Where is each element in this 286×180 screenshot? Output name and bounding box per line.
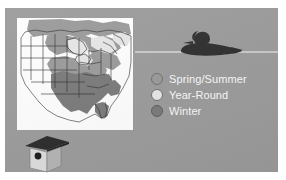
map-legend: Spring/Summer Year-Round Winter <box>151 71 277 119</box>
range-map-graphic <box>17 18 133 130</box>
birdhouse-icon <box>23 133 71 173</box>
figure-panel: Spring/Summer Year-Round Winter <box>5 8 278 172</box>
legend-label-winter: Winter <box>169 105 201 117</box>
birdhouse-entrance-hole <box>35 153 42 160</box>
legend-item-winter[interactable]: Winter <box>151 103 277 119</box>
birdhouse-graphic <box>23 133 71 173</box>
legend-label-year-round: Year-Round <box>169 89 228 101</box>
range-map-card <box>17 18 133 130</box>
legend-label-spring-summer: Spring/Summer <box>169 73 247 85</box>
duck-silhouette-graphic <box>173 30 243 58</box>
legend-swatch-spring-summer <box>151 73 163 85</box>
page-top-text-artifact: · · <box>0 0 286 7</box>
legend-swatch-winter <box>151 105 163 117</box>
legend-swatch-year-round <box>151 89 163 101</box>
legend-item-year-round[interactable]: Year-Round <box>151 87 277 103</box>
legend-item-spring-summer[interactable]: Spring/Summer <box>151 71 277 87</box>
duck-silhouette-icon <box>173 30 243 58</box>
